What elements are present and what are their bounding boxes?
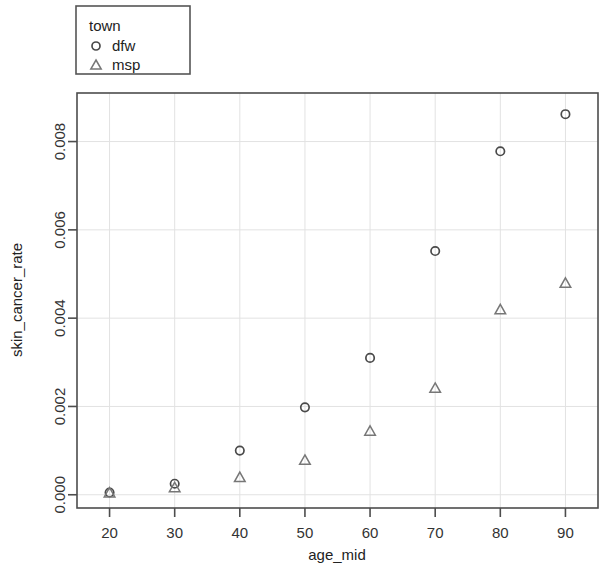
chart-canvas: 2030405060708090 0.0000.0020.0040.0060.0…: [0, 0, 609, 570]
plot-frame: [77, 93, 598, 508]
scatter-plot-figure: 2030405060708090 0.0000.0020.0040.0060.0…: [0, 0, 609, 570]
y-tick-label: 0.002: [51, 388, 68, 426]
x-axis-title: age_mid: [308, 546, 366, 563]
x-axis-ticks: 2030405060708090: [101, 508, 574, 541]
x-tick-label: 60: [362, 524, 379, 541]
x-tick-label: 80: [492, 524, 509, 541]
y-axis-title: skin_cancer_rate: [8, 243, 25, 357]
x-tick-label: 20: [101, 524, 118, 541]
x-tick-label: 40: [231, 524, 248, 541]
legend-label-msp: msp: [112, 56, 140, 73]
legend: town dfw msp: [76, 6, 190, 74]
x-tick-label: 70: [427, 524, 444, 541]
legend-title: town: [89, 17, 121, 34]
legend-label-dfw: dfw: [112, 37, 136, 54]
x-tick-label: 30: [166, 524, 183, 541]
x-tick-label: 90: [557, 524, 574, 541]
gridlines: [77, 93, 598, 508]
y-tick-label: 0.000: [51, 476, 68, 514]
x-tick-label: 50: [297, 524, 314, 541]
y-tick-label: 0.004: [51, 299, 68, 337]
y-axis-ticks: 0.0000.0020.0040.0060.008: [51, 123, 77, 514]
y-tick-label: 0.006: [51, 211, 68, 249]
plot-panel-border: [77, 93, 598, 508]
y-tick-label: 0.008: [51, 123, 68, 161]
